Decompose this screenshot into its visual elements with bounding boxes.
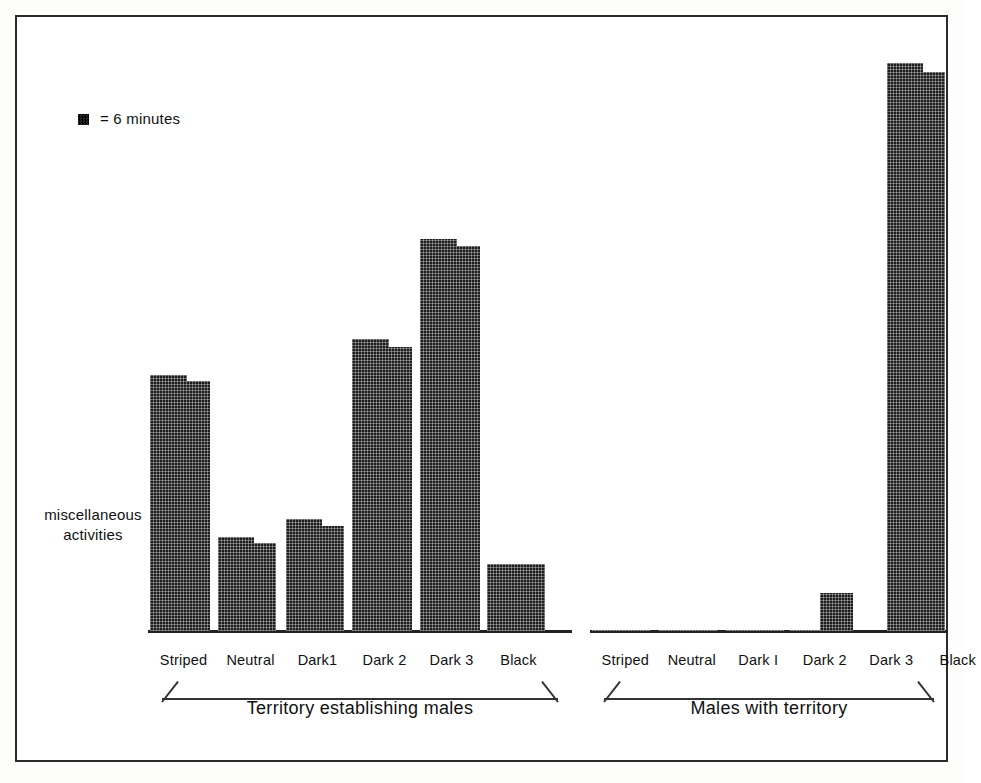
square-swatch-icon — [78, 114, 89, 125]
bar-dark-i — [726, 630, 784, 631]
bar-striped — [592, 630, 650, 631]
bar-neutral — [218, 537, 276, 631]
bar-dark-3 — [420, 239, 480, 631]
bar-striped — [150, 375, 210, 631]
bar-shoulder — [286, 519, 322, 631]
bar-shoulder — [659, 630, 695, 631]
bar-dark-3 — [820, 593, 853, 631]
category-label-black: Black — [908, 652, 981, 668]
legend-label: = 6 minutes — [100, 110, 180, 127]
bar-shoulder — [218, 537, 254, 631]
bar-neutral — [659, 630, 717, 631]
bar-shoulder — [150, 375, 187, 631]
legend: = 6 minutes — [78, 110, 180, 127]
y-axis-label-line2: activities — [33, 525, 153, 545]
group-caption-males-with-territory: Males with territory — [590, 698, 948, 719]
y-axis-label: miscellaneous activities — [33, 505, 153, 545]
bar-shoulder — [887, 63, 923, 631]
bar-dark1 — [286, 519, 344, 631]
bar-shoulder — [352, 339, 389, 631]
bar-dark-2 — [352, 339, 412, 631]
bar-shoulder — [420, 239, 457, 631]
bar-shoulder — [487, 564, 523, 631]
bar-shoulder — [726, 630, 762, 631]
bar-black — [487, 564, 545, 631]
bar-shoulder — [820, 593, 840, 631]
group-caption-territory-establishing-males: Territory establishing males — [148, 698, 572, 719]
y-axis-label-line1: miscellaneous — [33, 505, 153, 525]
bar-black — [887, 63, 945, 631]
bar-shoulder — [592, 630, 628, 631]
category-label-black: Black — [469, 652, 569, 668]
